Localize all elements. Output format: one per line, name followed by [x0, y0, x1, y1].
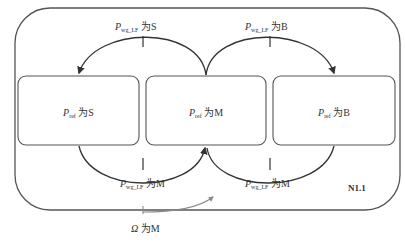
state-label-S: Pref 为S: [18, 104, 139, 119]
state-label-M: Pref 为M: [146, 104, 266, 119]
diagram-canvas: [0, 0, 405, 243]
state-label-B: Pref 为B: [273, 104, 395, 119]
outer-state-box: [14, 8, 400, 77]
transition-label-bottom-right: Pwg_LF 为M: [245, 175, 290, 190]
transition-label-top-left: Pwg_LF 为S: [115, 18, 157, 33]
outer-box-label: N1.1: [348, 183, 366, 193]
transition-label-top-right: Pwg_LF 为B: [245, 18, 288, 33]
transition-label-bottom-left: Pwg_LF 为M: [120, 175, 165, 190]
external-trigger-label: Ω 为M: [131, 220, 160, 235]
